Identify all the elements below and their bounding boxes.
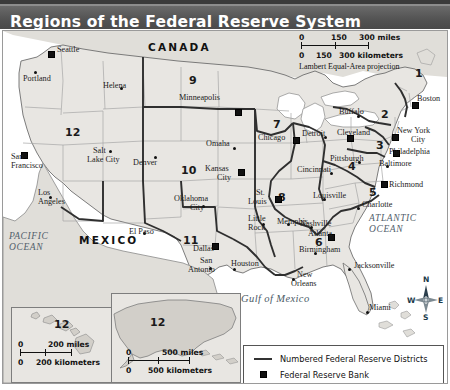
branch-bank-marker-omaha[interactable]	[233, 147, 236, 150]
reserve-bank-marker-san-francisco[interactable]	[21, 152, 28, 159]
reserve-bank-marker-richmond[interactable]	[381, 181, 388, 188]
compass-west: W	[407, 296, 415, 305]
branch-bank-marker-little-rock[interactable]	[262, 223, 265, 226]
compass-south: S	[423, 313, 428, 322]
scale-hawaii-miles-zero: 0	[18, 340, 23, 349]
branch-bank-marker-birmingham[interactable]	[314, 252, 317, 255]
reserve-bank-marker-st-louis[interactable]	[275, 196, 282, 203]
scale-hawaii-km-max: 200 kilometers	[36, 358, 100, 367]
reserve-bank-marker-boston[interactable]	[412, 102, 419, 109]
branch-bank-marker-helena[interactable]	[120, 87, 123, 90]
map-page: Regions of the Federal Reserve System	[0, 0, 450, 390]
hawaii-inset: 12 0 200 miles 0 200 kilometers	[11, 307, 113, 383]
scale-alaska-km-zero: 0	[126, 366, 131, 375]
reserve-bank-marker-cleveland[interactable]	[347, 135, 354, 142]
scale-alaska-miles-zero: 0	[126, 348, 131, 357]
branch-bank-marker-cincinnati[interactable]	[330, 172, 333, 175]
reserve-bank-marker-chicago[interactable]	[293, 137, 300, 144]
scale-main-km-max: 300 kilometers	[339, 51, 403, 60]
reserve-bank-marker-dallas[interactable]	[212, 243, 219, 250]
map-canvas: CANADA MEXICO PACIFIC OCEAN ATLANTIC OCE…	[2, 30, 448, 384]
branch-bank-marker-buffalo[interactable]	[357, 115, 360, 118]
branch-bank-marker-portland[interactable]	[34, 71, 37, 74]
scale-main-miles-mid: 150	[331, 33, 347, 42]
scale-hawaii-km-zero: 0	[18, 358, 23, 367]
scale-main-km-mid: 150	[316, 51, 332, 60]
legend-label-districts: Numbered Federal Reserve Districts	[280, 354, 428, 364]
scale-main-miles-zero: 0	[299, 33, 304, 42]
compass-east: E	[438, 296, 443, 305]
branch-bank-marker-houston[interactable]	[233, 268, 236, 271]
compass-rose: N S W E	[407, 275, 445, 323]
scale-bar-hawaii: 0 200 miles 0 200 kilometers	[18, 340, 104, 372]
page-title: Regions of the Federal Reserve System	[10, 13, 361, 31]
reserve-bank-marker-new-york-city[interactable]	[392, 134, 399, 141]
scale-main-miles-max: 300 miles	[359, 33, 400, 42]
scale-bar-alaska: 0 500 miles 0 500 kilometers	[126, 348, 226, 380]
reserve-bank-marker-philadelphia[interactable]	[393, 150, 400, 157]
branch-bank-marker-pittsburgh[interactable]	[358, 161, 361, 164]
legend-district-line-icon	[254, 358, 272, 360]
reserve-bank-marker-seattle[interactable]	[48, 51, 55, 58]
reserve-bank-marker-kansas-city[interactable]	[238, 169, 245, 176]
branch-bank-marker-miami[interactable]	[366, 311, 369, 314]
scale-alaska-km-max: 500 kilometers	[148, 366, 212, 375]
branch-bank-marker-jacksonville[interactable]	[348, 268, 351, 271]
branch-bank-marker-detroit[interactable]	[324, 136, 327, 139]
branch-bank-marker-memphis[interactable]	[287, 223, 290, 226]
branch-bank-marker-nashville[interactable]	[310, 226, 313, 229]
map-legend: Numbered Federal Reserve Districts Feder…	[243, 345, 444, 384]
scale-main-km-zero: 0	[299, 51, 304, 60]
alaska-inset: 12 0 500 miles 0 500 kilometers	[111, 293, 241, 383]
branch-bank-marker-baltimore[interactable]	[386, 165, 389, 168]
branch-bank-marker-san-antonio[interactable]	[209, 267, 212, 270]
legend-reserve-bank-icon	[260, 371, 267, 378]
map-projection-label: Lambert Equal-Area projection	[299, 62, 399, 71]
scale-hawaii-miles-max: 200 miles	[48, 340, 89, 349]
title-bar: Regions of the Federal Reserve System	[0, 6, 450, 29]
branch-bank-marker-louisville[interactable]	[323, 198, 326, 201]
scale-bar-main: 0 150 300 miles 0 150 300 kilometers Lam…	[299, 33, 429, 75]
reserve-bank-marker-minneapolis[interactable]	[235, 109, 242, 116]
scale-alaska-miles-max: 500 miles	[162, 348, 203, 357]
branch-bank-marker-los-angeles[interactable]	[49, 196, 52, 199]
branch-bank-marker-denver[interactable]	[154, 156, 157, 159]
branch-bank-marker-charlotte[interactable]	[357, 207, 360, 210]
branch-bank-marker-el-paso[interactable]	[143, 232, 146, 235]
legend-label-reserve-bank: Federal Reserve Bank	[280, 370, 369, 380]
branch-bank-marker-oklahoma-city[interactable]	[202, 205, 205, 208]
branch-bank-marker-salt-lake-city[interactable]	[109, 150, 112, 153]
reserve-bank-marker-atlanta[interactable]	[328, 234, 335, 241]
compass-north: N	[423, 275, 429, 284]
branch-bank-marker-new-orleans[interactable]	[292, 278, 295, 281]
